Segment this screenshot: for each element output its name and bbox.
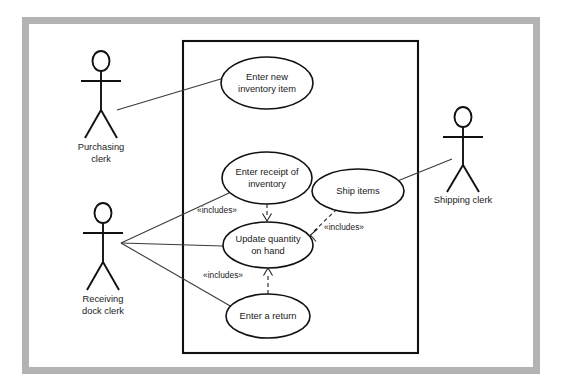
actor-head-icon: [455, 107, 472, 127]
use-case-enter-new-inventory-item[interactable]: Enter new inventory item: [221, 57, 313, 109]
actor-label-line2: clerk: [91, 154, 111, 164]
use-case-label-line1: Ship items: [336, 186, 380, 196]
use-case-label-line2: inventory item: [238, 84, 296, 94]
use-case-label-line1: Enter new: [246, 72, 288, 82]
actor-label-line2: dock clerk: [82, 306, 124, 316]
actor-label-line1: Receiving: [83, 294, 124, 304]
use-case-enter-a-return[interactable]: Enter a return: [226, 294, 310, 338]
use-case-enter-receipt-of-inventory[interactable]: Enter receipt of inventory: [222, 152, 312, 204]
use-case-label-line1: Enter receipt of: [235, 167, 298, 177]
actor-label-line1: Purchasing: [78, 142, 125, 152]
use-case-label-line2: inventory: [248, 179, 286, 189]
stereotype-includes-receipt: «includes»: [197, 205, 237, 215]
stereotype-includes-ship: «includes»: [324, 222, 364, 232]
diagram-canvas: Enter new inventory item Enter receipt o…: [0, 0, 563, 389]
use-case-label-line1: Enter a return: [240, 311, 297, 321]
use-case-label-line1: Update quantity: [235, 234, 300, 244]
actor-head-icon: [93, 51, 110, 71]
use-case-diagram: Enter new inventory item Enter receipt o…: [0, 0, 563, 389]
use-case-update-quantity-on-hand[interactable]: Update quantity on hand: [223, 222, 313, 268]
stereotype-includes-return: «includes»: [203, 270, 243, 280]
actor-head-icon: [95, 203, 112, 223]
use-case-ship-items[interactable]: Ship items: [312, 169, 404, 213]
actor-label-line1: Shipping clerk: [434, 195, 493, 205]
use-case-label-line2: on hand: [251, 246, 285, 256]
